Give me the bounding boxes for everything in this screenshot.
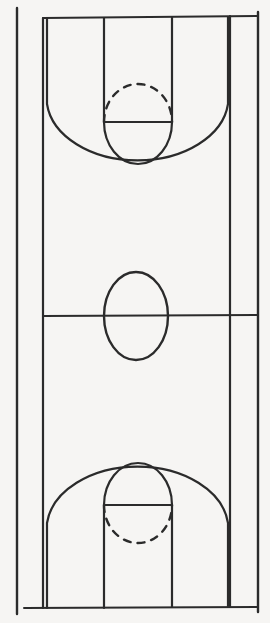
bottom-half-key-group [47,463,228,608]
midline [43,315,258,316]
mid-court-group [43,272,258,360]
baseline-top [43,16,258,18]
baseline-bottom [24,607,257,608]
top-half-key-group [47,17,228,164]
free-throw-circle-bottom-dashed-arc [104,505,172,543]
three-point-line-bottom [47,467,228,608]
court-canvas [0,0,270,623]
free-throw-circle-top-dashed-arc [104,84,172,122]
basketball-court-diagram [0,0,270,623]
court-boundaries [17,8,258,614]
three-point-line-top [47,17,228,160]
